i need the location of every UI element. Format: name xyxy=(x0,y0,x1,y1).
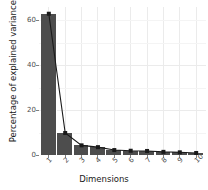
x-tick-label: 6 xyxy=(127,156,136,165)
scree-plot: Percentage of explained variances Dimens… xyxy=(0,0,208,190)
plot-panel xyxy=(39,7,206,155)
data-point xyxy=(95,145,99,149)
data-point xyxy=(112,148,116,152)
data-point xyxy=(177,150,181,154)
y-tick-label: 60 xyxy=(27,16,36,24)
data-point xyxy=(161,150,165,154)
x-tick-label: 8 xyxy=(160,156,169,165)
x-tick-label: 1 xyxy=(45,156,54,165)
x-tick-label: 7 xyxy=(144,156,153,165)
x-tick-label: 3 xyxy=(78,156,87,165)
data-point xyxy=(79,143,83,147)
data-point xyxy=(128,149,132,153)
data-point xyxy=(63,131,67,135)
y-tick-mark xyxy=(36,155,39,156)
x-tick-label: 5 xyxy=(111,156,120,165)
y-tick-label: 20 xyxy=(27,106,36,114)
y-tick-label: 40 xyxy=(27,61,36,69)
scree-line xyxy=(48,14,195,153)
x-tick-label: 4 xyxy=(94,156,103,165)
y-axis-tick-labels: 0204060 xyxy=(18,0,36,190)
x-tick-label: 9 xyxy=(176,156,185,165)
data-point xyxy=(46,12,50,16)
y-axis-title: Percentage of explained variances xyxy=(8,0,18,144)
data-point xyxy=(145,149,149,153)
scree-line-overlay xyxy=(39,7,206,155)
x-tick-label: 2 xyxy=(62,156,71,165)
